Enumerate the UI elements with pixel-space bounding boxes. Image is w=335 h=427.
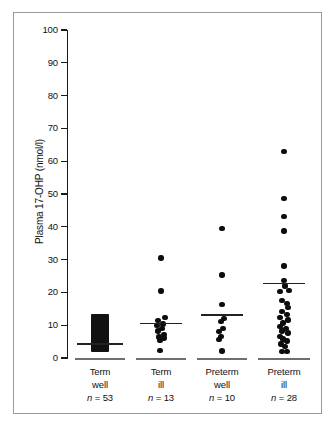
group-baseline-2 (197, 358, 247, 360)
data-point (285, 305, 290, 310)
y-tick-label-wrap-20: 20 (28, 287, 58, 297)
group-sample-size: n = 28 (246, 392, 322, 405)
y-tick-0 (61, 357, 67, 358)
scatter-plot: 0102030405060708090100 Plasma 17-OHP (nm… (0, 0, 335, 427)
y-tick-label-wrap-0: 0 (28, 353, 58, 363)
group-caption-3: Pretermilln = 28 (246, 366, 322, 405)
mean-line-2 (201, 314, 243, 315)
mean-line-3 (263, 283, 305, 284)
y-tick-label-20: 20 (32, 287, 58, 297)
data-point (155, 328, 160, 333)
data-point (284, 338, 289, 343)
data-point (279, 328, 284, 333)
y-axis-title: Plasma 17-OHP (nmol/l) (34, 112, 45, 272)
data-point (219, 348, 224, 353)
data-point (158, 255, 163, 260)
data-point (281, 196, 286, 201)
y-tick-label-10: 10 (32, 320, 58, 330)
data-point (281, 149, 286, 154)
y-tick-50 (61, 193, 67, 194)
y-tick-100 (61, 29, 67, 30)
y-axis-line (67, 30, 68, 359)
data-cluster-block-0 (91, 314, 109, 352)
y-tick-70 (61, 128, 67, 129)
y-tick-40 (61, 226, 67, 227)
data-point (281, 214, 286, 219)
y-tick-label-100: 100 (32, 25, 58, 35)
data-point (219, 226, 224, 231)
data-point (218, 319, 223, 324)
data-point (285, 317, 290, 322)
y-tick-20 (61, 292, 67, 293)
y-tick-label-90: 90 (32, 58, 58, 68)
y-tick-label-wrap-90: 90 (28, 58, 58, 68)
mean-line-0 (77, 343, 123, 344)
group-baseline-1 (136, 358, 186, 360)
group-baseline-3 (258, 358, 310, 360)
y-tick-label-80: 80 (32, 91, 58, 101)
mean-line-1 (140, 323, 182, 324)
y-tick-label-wrap-80: 80 (28, 91, 58, 101)
y-tick-60 (61, 161, 67, 162)
y-tick-label-0: 0 (32, 353, 58, 363)
group-label-line1: Preterm (246, 366, 322, 379)
data-point (281, 228, 286, 233)
data-point (277, 289, 282, 294)
y-tick-label-wrap-100: 100 (28, 25, 58, 35)
data-point (219, 272, 224, 277)
data-point (157, 338, 162, 343)
data-point (281, 263, 286, 268)
data-point (285, 330, 290, 335)
y-tick-30 (61, 259, 67, 260)
data-point (284, 349, 289, 354)
group-baseline-0 (75, 358, 125, 360)
data-point (286, 288, 291, 293)
figure-container: 0102030405060708090100 Plasma 17-OHP (nm… (0, 0, 335, 427)
data-point (216, 337, 221, 342)
y-tick-90 (61, 62, 67, 63)
y-tick-label-wrap-10: 10 (28, 320, 58, 330)
data-point (157, 348, 162, 353)
data-point (162, 315, 167, 320)
group-label-line2: ill (246, 379, 322, 392)
data-point (158, 288, 163, 293)
data-point (219, 302, 224, 307)
y-tick-80 (61, 95, 67, 96)
y-tick-10 (61, 325, 67, 326)
